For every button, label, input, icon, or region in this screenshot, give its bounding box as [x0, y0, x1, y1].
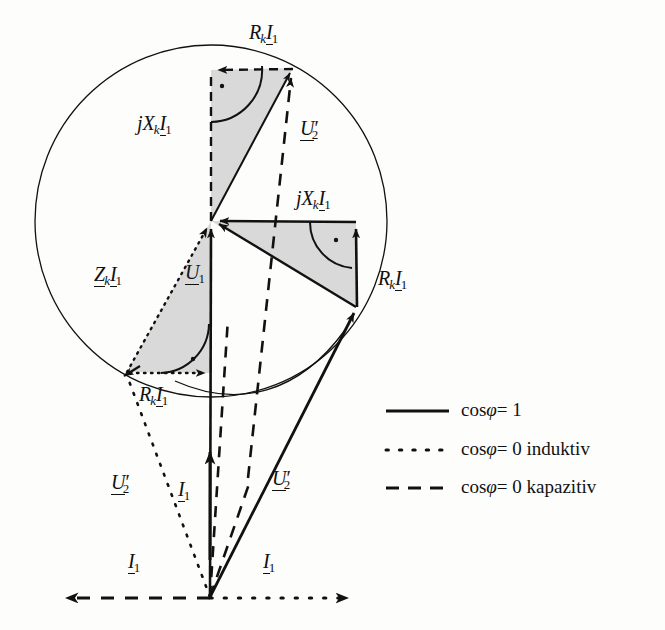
u2-prime-inductive-vector — [129, 381, 210, 597]
u2-prime-capacitive-lower — [210, 484, 249, 597]
jxk-i1-resistive-vector — [220, 221, 356, 222]
label-rk-i1-top: RkI1 — [249, 22, 278, 45]
legend-cos-1: cos — [461, 438, 486, 459]
u2-prime-resistive-vector — [210, 313, 354, 597]
label-i1-bottom-right: I1 — [263, 551, 275, 574]
right-angle-dot-right — [334, 238, 338, 242]
label-rk-i1-bottom: RkI1 — [139, 384, 168, 407]
legend-label-1: cosφ= 0 induktiv — [461, 439, 590, 458]
label-zk-i1-left: ZkI1 — [94, 264, 122, 287]
label-jxk-i1-left: jXkI1 — [137, 113, 172, 136]
legend-eq-0: = 1 — [497, 399, 522, 420]
right-angle-dot-top — [220, 84, 224, 88]
legend-phi-2: φ — [486, 476, 497, 497]
legend-lines — [386, 411, 449, 488]
label-i1-bottom-left: I1 — [128, 551, 140, 574]
legend-eq-2: = 0 kapazitiv — [497, 476, 596, 497]
label-u2-prime-left: U′2 — [111, 472, 129, 495]
label-u2-prime-right: U′2 — [272, 468, 290, 491]
label-u2-prime-top: U′2 — [300, 118, 318, 141]
label-jxk-i1-right: jXkI1 — [296, 188, 331, 211]
label-rk-i1-right: RkI1 — [378, 268, 407, 291]
legend-eq-1: = 0 induktiv — [497, 438, 590, 459]
label-u1-center: U1 — [185, 262, 205, 285]
legend-cos-2: cos — [461, 476, 486, 497]
label-i1-mid-left: I1 — [178, 479, 190, 502]
legend-cos-0: cos — [461, 399, 486, 420]
legend-phi-1: φ — [486, 438, 497, 459]
legend-label-0: cosφ= 1 — [461, 400, 522, 419]
legend-phi-0: φ — [486, 399, 497, 420]
phasor-diagram-figure: RkI1 jXkI1 U′2 jXkI1 RkI1 ZkI1 U1 RkI1 U… — [0, 0, 665, 630]
diagram-canvas — [0, 0, 665, 630]
legend-label-2: cosφ= 0 kapazitiv — [461, 477, 596, 496]
rk-i1-resistive-vector — [356, 229, 357, 307]
